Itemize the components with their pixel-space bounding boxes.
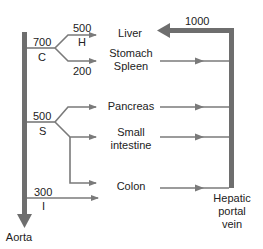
- drainage-arrowheads: [195, 58, 204, 192]
- portal-vein-label-line2: portal: [205, 205, 259, 218]
- organ-liver: Liver: [105, 27, 155, 40]
- organ-colon: Colon: [103, 180, 159, 193]
- organ-drainage-arrows: [160, 61, 229, 188]
- aorta-label: Aorta: [2, 231, 36, 244]
- inferior-mesenteric-abbrev: I: [42, 200, 45, 212]
- organ-small-intestine-line1: Small: [103, 126, 159, 139]
- hepatic-abbrev: H: [78, 36, 86, 48]
- portal-vein-label-line1: Hepatic: [205, 192, 259, 205]
- inferior-mesenteric-flow: 300: [34, 186, 52, 198]
- aorta-arrowhead-icon: [17, 214, 32, 228]
- portal-vein-flow: 1000: [185, 15, 209, 27]
- portal-vein-label-line3: vein: [205, 218, 259, 231]
- organ-pancreas: Pancreas: [103, 100, 159, 113]
- organ-stomach: Stomach: [103, 47, 159, 60]
- superior-mesenteric-abbrev: S: [39, 125, 46, 137]
- celiac-flow: 700: [33, 36, 51, 48]
- superior-mesenteric-flow: 500: [33, 110, 51, 122]
- splenic-flow: 200: [73, 65, 91, 77]
- celiac-abbrev: C: [38, 51, 46, 63]
- hepatic-flow: 500: [73, 22, 91, 34]
- organ-small-intestine-line2: intestine: [103, 139, 159, 152]
- portal-arrowhead-icon: [157, 23, 170, 38]
- organ-spleen: Spleen: [103, 60, 159, 73]
